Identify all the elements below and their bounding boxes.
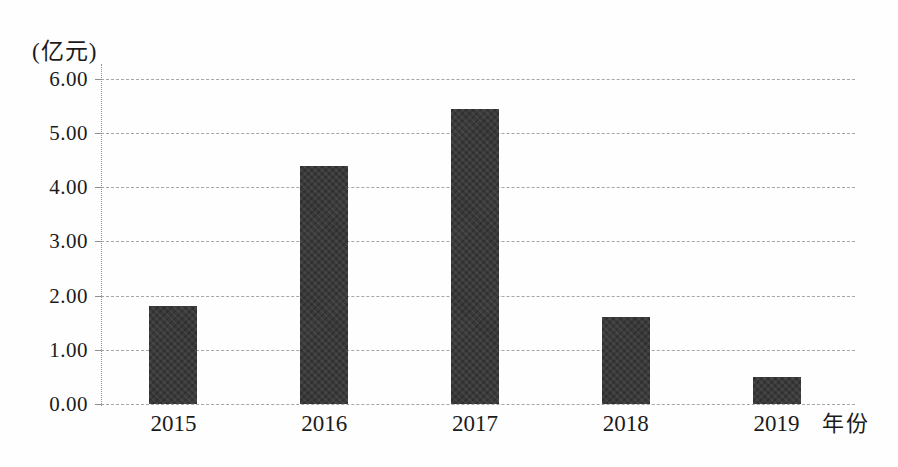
gridline-0.00 — [101, 404, 855, 405]
y-tick-label-1.00: 1.00 — [0, 338, 88, 362]
y-tick-label-2.00: 2.00 — [0, 284, 88, 308]
y-tick-label-6.00: 6.00 — [0, 67, 88, 91]
bar-2017 — [451, 109, 499, 404]
y-tick-label-0.00: 0.00 — [0, 392, 88, 416]
bar-chart-figure: (亿元) 0.001.002.003.004.005.006.00 201520… — [0, 0, 898, 467]
y-tick-label-3.00: 3.00 — [0, 229, 88, 253]
y-axis-unit-label: (亿元) — [32, 32, 97, 66]
x-tick-label-2017: 2017 — [430, 411, 520, 437]
bar-2016 — [300, 166, 348, 404]
bar-2015 — [149, 306, 197, 404]
y-tick-label-5.00: 5.00 — [0, 121, 88, 145]
x-tick-label-2015: 2015 — [128, 411, 218, 437]
x-tick-label-2019: 2019 — [732, 411, 822, 437]
y-axis-line — [101, 64, 102, 406]
x-tick-label-2018: 2018 — [581, 411, 671, 437]
x-axis-title: 年份 — [822, 411, 870, 437]
x-tick-label-2016: 2016 — [279, 411, 369, 437]
bar-2018 — [602, 317, 650, 404]
bar-2019 — [753, 377, 801, 404]
gridline-6.00 — [101, 79, 855, 80]
y-tick-label-4.00: 4.00 — [0, 175, 88, 199]
